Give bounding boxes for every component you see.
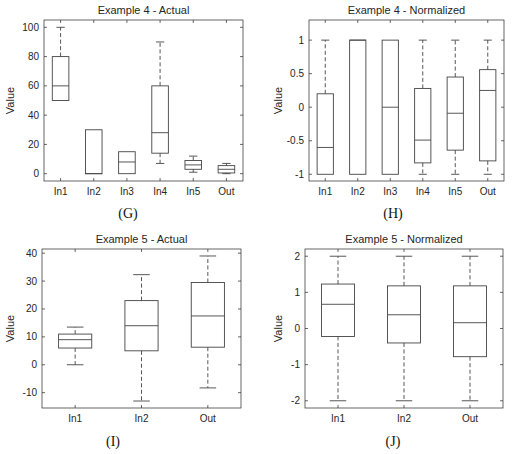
iqr-box	[59, 334, 92, 348]
box-in2	[125, 275, 158, 401]
x-tick-label: In1	[54, 186, 68, 197]
y-axis-label: Value	[272, 87, 284, 114]
y-tick-label: 1	[298, 35, 304, 46]
x-tick-label: In1	[331, 413, 345, 424]
y-tick-label: 0	[31, 359, 37, 370]
x-tick-label: In2	[135, 413, 149, 424]
x-tick-label: Out	[480, 186, 496, 197]
box-in4	[415, 40, 431, 174]
box-in5	[185, 156, 202, 172]
x-tick-label: In2	[397, 413, 411, 424]
y-tick-label: 40	[28, 110, 40, 121]
y-tick-label: 20	[26, 303, 38, 314]
x-tick-label: In5	[186, 186, 200, 197]
box-in2	[350, 40, 366, 174]
iqr-box	[317, 94, 333, 174]
box-in1	[317, 40, 333, 174]
iqr-box	[480, 70, 496, 161]
axes-frame	[309, 20, 504, 181]
panel-caption: (I)	[106, 434, 120, 450]
y-tick-label: -10	[23, 387, 38, 398]
box-out	[480, 40, 496, 174]
panel-j-example5-normalized: Example 5 - Normalized-2-1012ValueIn1In2…	[272, 233, 503, 450]
panel-h-example4-normalized: Example 4 - Normalized-1-0.500.51ValueIn…	[272, 4, 504, 222]
box-in1	[59, 327, 92, 365]
x-tick-label: In2	[351, 186, 365, 197]
iqr-box	[85, 130, 102, 174]
y-tick-label: 30	[26, 276, 38, 287]
panel-caption: (J)	[386, 434, 401, 450]
y-axis-label: Value	[272, 315, 284, 342]
box-out	[218, 163, 235, 173]
panel-i-example5-actual: Example 5 - Actual-10010203040ValueIn1In…	[4, 233, 241, 450]
y-tick-label: -1	[291, 359, 300, 370]
box-in3	[382, 40, 398, 174]
y-tick-label: -0.5	[287, 135, 305, 146]
y-tick-label: 1	[294, 287, 300, 298]
axes-frame	[44, 20, 243, 181]
x-tick-label: In4	[153, 186, 167, 197]
iqr-box	[152, 86, 169, 153]
iqr-box	[52, 57, 69, 101]
chart-title: Example 5 - Normalized	[345, 233, 462, 245]
box-in2	[388, 256, 421, 401]
box-in4	[152, 42, 169, 163]
y-tick-label: 10	[26, 331, 38, 342]
box-out	[191, 256, 224, 388]
iqr-box	[191, 282, 224, 347]
y-tick-label: 0	[33, 168, 39, 179]
x-tick-label: Out	[200, 413, 216, 424]
y-tick-label: 20	[28, 139, 40, 150]
box-in1	[52, 27, 69, 100]
y-tick-label: -1	[295, 169, 304, 180]
x-tick-label: In5	[448, 186, 462, 197]
chart-title: Example 4 - Normalized	[348, 4, 465, 16]
iqr-box	[415, 88, 431, 162]
box-in1	[322, 256, 355, 401]
box-in3	[119, 152, 136, 174]
box-out	[454, 256, 487, 401]
panel-g-example4-actual: Example 4 - Actual020406080100ValueIn1In…	[4, 4, 243, 222]
box-plot-figure: Example 4 - Actual020406080100ValueIn1In…	[0, 0, 514, 454]
x-tick-label: In3	[383, 186, 397, 197]
x-tick-label: In2	[87, 186, 101, 197]
y-tick-label: -2	[291, 395, 300, 406]
iqr-box	[454, 286, 487, 357]
y-tick-label: 0	[294, 323, 300, 334]
x-tick-label: Out	[462, 413, 478, 424]
y-axis-label: Value	[4, 315, 16, 342]
y-tick-label: 60	[28, 80, 40, 91]
y-tick-label: 0	[298, 102, 304, 113]
x-tick-label: In1	[318, 186, 332, 197]
y-tick-label: 40	[26, 248, 38, 259]
iqr-box	[322, 284, 355, 336]
y-tick-label: 80	[28, 51, 40, 62]
y-tick-label: 2	[294, 251, 300, 262]
chart-title: Example 5 - Actual	[96, 233, 188, 245]
iqr-box	[350, 40, 366, 174]
panel-caption: (G)	[118, 206, 138, 222]
chart-title: Example 4 - Actual	[98, 4, 190, 16]
iqr-box	[119, 152, 136, 174]
y-tick-label: 0.5	[290, 68, 304, 79]
box-in2	[85, 130, 102, 174]
x-tick-label: In4	[416, 186, 430, 197]
x-tick-label: In1	[68, 413, 82, 424]
panel-caption: (H)	[383, 206, 403, 222]
x-tick-label: Out	[218, 186, 234, 197]
box-in5	[447, 40, 463, 174]
x-tick-label: In3	[120, 186, 134, 197]
y-tick-label: 100	[22, 22, 39, 33]
y-axis-label: Value	[4, 87, 16, 114]
